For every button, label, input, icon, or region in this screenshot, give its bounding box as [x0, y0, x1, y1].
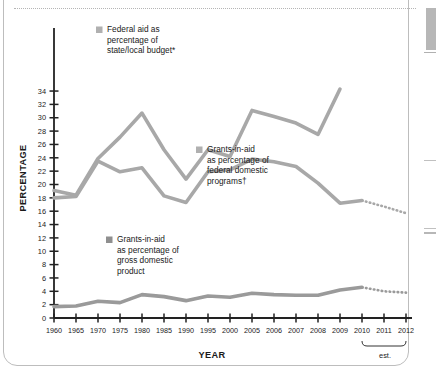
x-tick-label: 2008 — [310, 326, 326, 335]
y-tick-label: 30 — [38, 113, 46, 122]
chart-legend: Federal aid aspercentage ofstate/local b… — [96, 24, 270, 276]
y-tick-label: 14 — [38, 220, 46, 229]
y-axis-title: PERCENTAGE — [18, 144, 28, 211]
estimate-label: est. — [379, 351, 391, 360]
legend-label-line: product — [117, 266, 145, 276]
y-tick-label: 20 — [38, 180, 46, 189]
y-axis-ticks: 0246810121416182022242628303234 — [38, 87, 59, 323]
y-tick-label: 26 — [38, 140, 46, 149]
y-tick-label: 6 — [42, 274, 46, 283]
y-tick-label: 24 — [38, 154, 46, 163]
y-tick-label: 16 — [38, 207, 46, 216]
x-tick-label: 2006 — [266, 326, 282, 335]
legend-label-line: federal domestic — [207, 165, 268, 175]
legend-item-1: Grants-in-aidas percentage offederal dom… — [196, 144, 270, 186]
series-line-estimate-2 — [362, 287, 406, 292]
x-tick-label: 2000 — [222, 326, 238, 335]
x-tick-label: 1990 — [178, 326, 194, 335]
legend-swatch — [196, 147, 203, 154]
legend-label-line: Grants-in-aid — [117, 234, 165, 244]
y-tick-label: 22 — [38, 167, 46, 176]
series-line-2 — [54, 287, 362, 306]
y-tick-label: 18 — [38, 194, 46, 203]
x-tick-label: 2007 — [288, 326, 304, 335]
y-tick-label: 12 — [38, 234, 46, 243]
legend-label-line: gross domestic — [117, 255, 173, 265]
x-tick-label: 2012 — [398, 326, 414, 335]
legend-label-line: Grants-in-aid — [207, 144, 255, 154]
x-tick-label: 1985 — [156, 326, 172, 335]
series-line-estimate-1 — [362, 201, 406, 214]
x-tick-label: 2009 — [332, 326, 348, 335]
x-tick-label: 1995 — [200, 326, 216, 335]
legend-swatch — [106, 237, 113, 244]
legend-label-line: Federal aid as — [107, 24, 160, 34]
y-tick-label: 0 — [42, 314, 46, 323]
y-tick-label: 32 — [38, 100, 46, 109]
y-tick-label: 34 — [38, 87, 46, 96]
y-tick-label: 28 — [38, 127, 46, 136]
legend-swatch — [96, 27, 103, 34]
series-line-0 — [54, 89, 340, 195]
x-axis-ticks: 1960196519701975198019851990199520002005… — [46, 314, 414, 336]
x-tick-label: 1980 — [134, 326, 150, 335]
legend-label-line: programs† — [207, 176, 247, 186]
legend-label-line: as percentage of — [117, 245, 180, 255]
x-tick-label: 1965 — [68, 326, 84, 335]
x-tick-label: 1975 — [112, 326, 128, 335]
x-tick-label: 1960 — [46, 326, 62, 335]
y-tick-label: 10 — [38, 247, 46, 256]
x-axis-title: YEAR — [198, 350, 225, 360]
legend-item-0: Federal aid aspercentage ofstate/local b… — [96, 24, 176, 55]
x-tick-label: 2011 — [376, 326, 391, 335]
y-tick-label: 4 — [42, 287, 46, 296]
estimate-brace — [362, 341, 406, 346]
x-tick-label: 2005 — [244, 326, 260, 335]
x-tick-label: 1970 — [90, 326, 106, 335]
series-group — [54, 89, 406, 307]
legend-label-line: percentage of — [107, 35, 158, 45]
legend-label-line: as percentage of — [207, 155, 270, 165]
chart-page: 0246810121416182022242628303234 19601965… — [0, 0, 436, 372]
brace-path — [362, 341, 406, 346]
legend-label-line: state/local budget* — [107, 45, 176, 55]
line-chart: 0246810121416182022242628303234 19601965… — [0, 0, 436, 372]
y-tick-label: 8 — [42, 260, 46, 269]
x-tick-label: 2010 — [354, 326, 370, 335]
legend-item-2: Grants-in-aidas percentage ofgross domes… — [106, 234, 180, 276]
y-tick-label: 2 — [42, 300, 46, 309]
